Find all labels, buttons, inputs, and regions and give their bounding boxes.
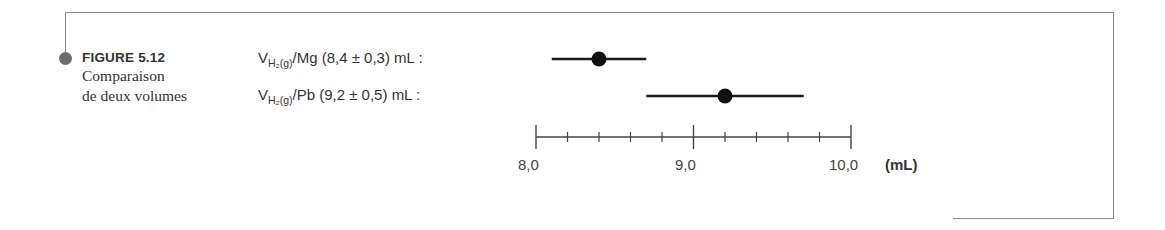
tick-label-10: 10,0 bbox=[829, 156, 858, 173]
error-bar-plot bbox=[0, 0, 1165, 230]
x-axis bbox=[536, 125, 851, 149]
axis-unit: (mL) bbox=[885, 156, 918, 173]
tick-label-8: 8,0 bbox=[518, 156, 539, 173]
error-bars bbox=[552, 52, 804, 104]
data-point-marker bbox=[718, 89, 733, 104]
tick-label-9: 9,0 bbox=[675, 156, 696, 173]
data-point-marker bbox=[592, 52, 607, 67]
